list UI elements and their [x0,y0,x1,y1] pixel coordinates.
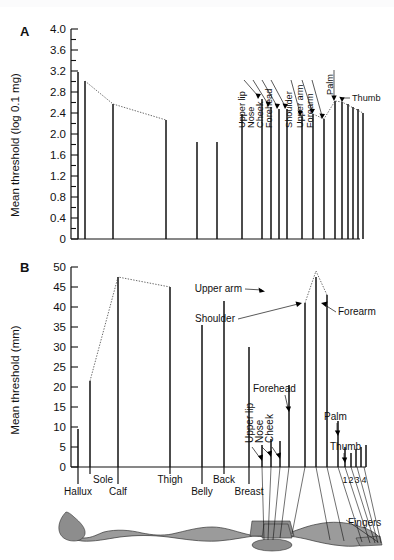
head-block [262,524,292,538]
panel-a-label-upper-arm: Upper arm [295,84,305,128]
tactile-threshold-figure: A Mean threshold (log 0.1 mg) 4.0 3.6 3.… [0,0,394,560]
panel-b-label-upper-arm: Upper arm [195,283,242,294]
panel-b-baseline-hallux: Hallux [64,486,92,497]
panel-b: B Mean threshold (mm) 50 45 40 35 30 25 … [9,260,381,528]
panel-b-baseline-thigh: Thigh [157,474,182,485]
panel-a-label-shoulder: Shoulder [284,91,294,128]
arm-ellipse [252,539,292,551]
panel-a-bars [78,72,363,239]
panel-b-baseline-breast: Breast [235,486,264,497]
panel-b-label-palm: Palm [324,411,347,422]
panel-b-major-ticks [71,267,78,467]
panel-a-ytick-3: 2.8 [50,86,66,98]
panel-b-axis-label: Mean threshold (mm) [9,325,21,434]
panel-a-label-forehead: Forehead [264,89,274,128]
panel-a-ytick-0: 4.0 [50,23,66,35]
panel-b-label-thumb: Thumb [330,441,362,452]
panel-b-ytick-1: 45 [53,281,66,293]
panel-b-label-cheek: Cheek [264,413,275,443]
panel-b-ytick-5: 25 [53,361,66,373]
panel-b-ytick-7: 15 [53,401,66,413]
figure-container: A Mean threshold (log 0.1 mg) 4.0 3.6 3.… [0,0,394,560]
panel-b-finger-4: 4 [361,475,366,485]
panel-b-baseline-belly: Belly [191,486,213,497]
hand-wedge [356,536,382,546]
panel-a-axis-label: Mean threshold (log 0.1 mg) [9,73,21,217]
panel-b-ytick-0: 50 [53,261,66,273]
panel-a-envelope-left [85,81,166,120]
panel-b-envelope-left [90,277,170,381]
foot-detail [59,512,85,541]
panel-a-letter: A [20,24,30,39]
panel-b-label-forehead: Forehead [253,383,296,394]
panel-b-baseline-calf: Calf [109,486,127,497]
panel-a-ytick-10: 0 [60,233,66,245]
panel-a-ytick-4: 2.4 [50,107,67,119]
panel-b-ytick-9: 5 [60,441,66,453]
panel-b-ytick-4: 30 [53,341,66,353]
panel-a-ytick-6: 1.6 [50,149,66,161]
panel-b-ytick-6: 20 [53,381,66,393]
panel-a: A Mean threshold (log 0.1 mg) 4.0 3.6 3.… [9,23,381,245]
panel-b-label-shoulder: Shoulder [195,313,236,324]
panel-a-ytick-5: 2.0 [50,128,66,140]
panel-a-ytick-2: 3.2 [50,65,66,77]
panel-a-label-thumb: Thumb [352,93,381,103]
panel-a-ytick-8: 0.8 [50,191,66,203]
panel-b-baseline-back: Back [213,474,236,485]
panel-b-label-forearm: Forearm [338,306,376,317]
panel-a-ytick-7: 1.2 [50,170,66,182]
panel-b-ytick-8: 10 [53,421,66,433]
panel-b-letter: B [20,260,29,275]
panel-b-bars [78,277,366,467]
panel-b-baseline-sole: Sole [93,474,113,485]
panel-b-ytick-3: 35 [53,321,66,333]
panel-a-ytick-9: 0.4 [50,212,67,224]
panel-b-ytick-2: 40 [53,301,66,313]
cropped-header-strip [0,0,394,7]
panel-a-label-palm: Palm [325,74,335,95]
reclining-body-outline [64,513,380,546]
panel-a-ytick-1: 3.6 [50,44,66,56]
panel-b-ytick-10: 0 [60,461,66,473]
